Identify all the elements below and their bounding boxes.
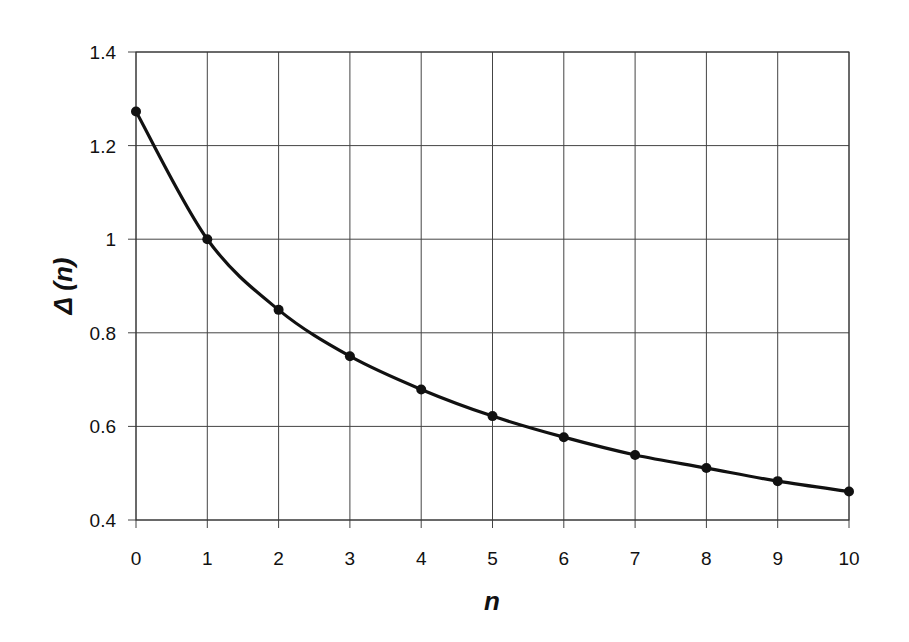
y-tick-label: 1.2 [90, 136, 116, 157]
y-axis-ticks: 0.40.60.811.21.4 [90, 42, 117, 531]
y-tick-label: 1.4 [90, 42, 117, 63]
data-point [202, 234, 212, 244]
x-tick-label: 7 [630, 548, 641, 569]
x-tick-label: 9 [772, 548, 783, 569]
x-tick-label: 5 [487, 548, 498, 569]
x-axis-ticks: 012345678910 [131, 548, 860, 569]
y-tick-label: 0.8 [90, 323, 116, 344]
x-tick-label: 6 [559, 548, 570, 569]
data-point [416, 384, 426, 394]
data-point [630, 450, 640, 460]
data-point [488, 411, 498, 421]
y-tick-label: 0.4 [90, 510, 117, 531]
x-tick-label: 3 [345, 548, 356, 569]
x-tick-label: 2 [273, 548, 284, 569]
x-tick-label: 4 [416, 548, 427, 569]
y-axis-title: Δ (n) [48, 258, 78, 316]
data-point [559, 432, 569, 442]
line-chart: 0.40.60.811.21.4 012345678910 n Δ (n) [0, 0, 909, 642]
data-point [274, 305, 284, 315]
y-tick-label: 0.6 [90, 416, 116, 437]
data-point [131, 106, 141, 116]
x-tick-label: 10 [838, 548, 859, 569]
x-tick-label: 8 [701, 548, 712, 569]
x-tick-label: 1 [202, 548, 213, 569]
grid-lines [128, 52, 849, 528]
data-point [773, 476, 783, 486]
y-tick-label: 1 [105, 229, 116, 250]
data-point [844, 486, 854, 496]
data-point [345, 351, 355, 361]
x-tick-label: 0 [131, 548, 142, 569]
data-point [701, 463, 711, 473]
x-axis-title: n [484, 586, 500, 616]
